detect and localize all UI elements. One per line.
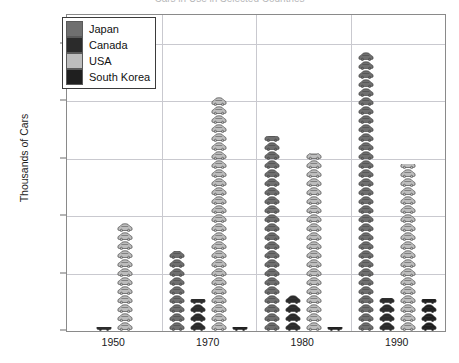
legend-item-usa[interactable]: USA [66,53,150,69]
car-pictogram [358,277,374,286]
car-pictogram [379,304,395,313]
car-pictogram [117,232,133,241]
bar-usa-1950 [117,223,133,331]
car-pictogram [211,232,227,241]
x-tick-label: 1990 [385,336,408,348]
car-pictogram [211,322,227,331]
car-pictogram [169,322,185,331]
car-pictogram [211,115,227,124]
car-pictogram [358,322,374,331]
car-pictogram [211,277,227,286]
car-pictogram [264,250,280,259]
car-pictogram [358,142,374,151]
legend-item-japan[interactable]: Japan [66,21,150,37]
car-pictogram [400,295,416,304]
car-pictogram [190,322,206,331]
car-pictogram [358,259,374,268]
bar-south-korea-1970 [232,327,248,331]
legend-item-label: Canada [89,37,128,53]
car-pictogram [358,70,374,79]
car-pictogram [264,151,280,160]
car-pictogram [306,223,322,232]
car-pictogram [358,187,374,196]
car-pictogram [358,88,374,97]
car-pictogram [211,259,227,268]
car-pictogram [306,313,322,322]
car-pictogram [306,295,322,304]
x-tick-label: 1970 [196,336,219,348]
gridline-vertical [162,15,163,331]
car-pictogram [169,277,185,286]
car-pictogram [264,196,280,205]
car-pictogram [169,259,185,268]
legend-item-label: USA [89,53,112,69]
car-pictogram [400,313,416,322]
car-pictogram [264,205,280,214]
car-pictogram [264,178,280,187]
legend-swatch-icon [66,53,83,69]
car-pictogram [211,133,227,142]
car-pictogram [358,223,374,232]
legend-item-canada[interactable]: Canada [66,37,150,53]
bar-canada-1980 [285,294,301,331]
car-pictogram [264,286,280,295]
car-pictogram [211,106,227,115]
car-pictogram [211,196,227,205]
car-pictogram [358,97,374,106]
car-pictogram [400,250,416,259]
y-tick-mark [60,100,66,101]
bar-usa-1970 [211,93,227,331]
bar-south-korea-1980 [327,327,343,331]
car-pictogram [211,142,227,151]
car-pictogram [211,214,227,223]
car-pictogram [306,169,322,178]
car-pictogram [117,241,133,250]
car-pictogram [358,52,374,61]
car-pictogram [358,61,374,70]
car-pictogram [285,313,301,322]
bar-japan-1980 [264,136,280,331]
car-pictogram [285,322,301,331]
car-pictogram [211,97,227,106]
car-pictogram [211,187,227,196]
y-axis-title: Thousands of Cars [18,78,30,238]
car-pictogram [358,169,374,178]
car-pictogram [169,268,185,277]
car-pictogram [306,232,322,241]
car-pictogram [306,153,322,160]
car-pictogram [358,313,374,322]
car-pictogram [190,313,206,322]
x-tick-label: 1950 [102,336,125,348]
car-pictogram [306,241,322,250]
car-pictogram [306,277,322,286]
bar-canada-1990 [379,298,395,331]
car-pictogram [117,286,133,295]
car-pictogram [117,295,133,304]
car-pictogram [211,178,227,187]
car-pictogram [400,241,416,250]
car-pictogram [358,151,374,160]
car-pictogram [379,322,395,331]
y-tick-mark [60,215,66,216]
legend-item-south-korea[interactable]: South Korea [66,69,150,85]
car-pictogram [264,223,280,232]
chart-legend: JapanCanadaUSASouth Korea [62,17,156,89]
car-pictogram [306,214,322,223]
car-pictogram [211,268,227,277]
car-pictogram [400,286,416,295]
car-pictogram [358,115,374,124]
car-pictogram [306,259,322,268]
car-pictogram [306,286,322,295]
car-pictogram [211,295,227,304]
car-pictogram [400,187,416,196]
car-pictogram [421,304,437,313]
legend-swatch-icon [66,69,83,85]
car-pictogram [264,214,280,223]
chart-title: Cars in Use in Selected Countries [0,0,459,2]
car-pictogram [306,250,322,259]
car-pictogram [232,327,248,331]
car-pictogram [190,304,206,313]
car-pictogram [358,133,374,142]
car-pictogram [117,259,133,268]
car-pictogram [264,169,280,178]
